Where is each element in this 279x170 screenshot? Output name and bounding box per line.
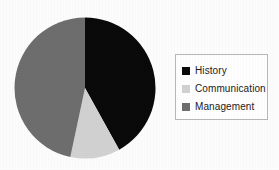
chart-legend: History Communication Management bbox=[175, 54, 268, 120]
pie-slices bbox=[15, 18, 156, 159]
legend-item-history[interactable]: History bbox=[182, 64, 227, 77]
legend-swatch-management bbox=[182, 103, 190, 111]
pie-chart-plot-area bbox=[14, 17, 156, 159]
legend-label-history: History bbox=[195, 65, 227, 76]
pie-chart-figure: History Communication Management bbox=[0, 0, 279, 170]
legend-label-communication: Communication bbox=[195, 83, 266, 94]
pie-slice-management[interactable] bbox=[15, 18, 85, 157]
pie-svg bbox=[14, 17, 156, 159]
legend-label-management: Management bbox=[195, 101, 254, 112]
legend-item-communication[interactable]: Communication bbox=[182, 82, 266, 95]
legend-swatch-history bbox=[182, 67, 190, 75]
legend-swatch-communication bbox=[182, 85, 190, 93]
legend-item-management[interactable]: Management bbox=[182, 100, 254, 113]
